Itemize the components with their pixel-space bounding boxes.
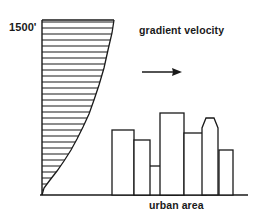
building-7 (202, 118, 218, 195)
urban-area-label: urban area (149, 199, 204, 211)
building-8 (219, 150, 233, 195)
flow-direction-arrow-icon (142, 68, 182, 76)
velocity-profile-hatch (40, 18, 120, 198)
wind-gradient-figure: 1500' gradient velocity urban area (0, 0, 262, 224)
building-1 (112, 130, 134, 195)
building-5 (160, 113, 184, 195)
gradient-velocity-label: gradient velocity (139, 24, 224, 36)
height-label: 1500' (9, 21, 37, 33)
building-2 (134, 140, 150, 195)
city-skyline (112, 113, 233, 195)
